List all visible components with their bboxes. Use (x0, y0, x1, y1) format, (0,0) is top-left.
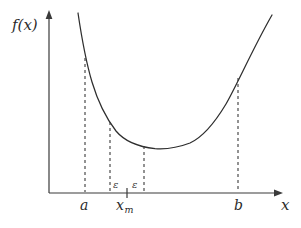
xm-subscript: m (124, 204, 133, 215)
epsilon-right-label: ε (132, 180, 137, 190)
plot-canvas (0, 0, 301, 228)
x-tick-label-a: a (80, 198, 88, 212)
xm-base: x (116, 197, 124, 213)
function-curve (78, 13, 272, 149)
x-tick-label-xm: xm (116, 198, 133, 212)
y-axis-label: f(x) (12, 18, 38, 33)
y-axis-arrowhead (46, 10, 53, 19)
epsilon-left-label: ε (113, 180, 118, 190)
convex-function-figure: f(x) x a xm b ε ε (0, 0, 301, 228)
x-axis-label: x (281, 198, 289, 213)
x-tick-label-b: b (234, 198, 243, 212)
